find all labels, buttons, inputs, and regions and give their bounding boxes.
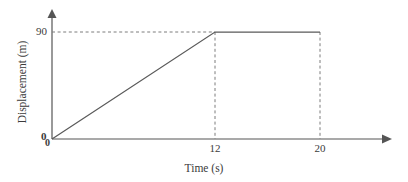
chart-plot-area <box>0 0 408 182</box>
x-axis-tick-label-20: 20 <box>310 142 330 154</box>
y-axis-arrowhead <box>48 9 57 18</box>
x-axis-tick-label-12: 12 <box>205 142 225 154</box>
x-axis-arrowhead <box>382 135 392 144</box>
x-axis-title: Time (s) <box>0 162 408 174</box>
x-axis-origin-label: 0 <box>45 137 50 148</box>
y-axis-tick-label-90: 90 <box>30 25 47 37</box>
y-axis <box>48 9 57 139</box>
y-axis-title: Displacement (m) <box>16 22 28 142</box>
displacement-series-line <box>52 32 320 139</box>
displacement-time-chart: 90 12 20 0 0 Time (s) Displacement (m) <box>0 0 408 182</box>
